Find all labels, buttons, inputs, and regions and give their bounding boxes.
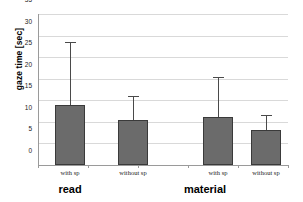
error-bar <box>218 77 219 116</box>
y-axis-tick-label: 0 <box>2 148 32 155</box>
x-axis-tick <box>138 165 139 168</box>
error-bar <box>70 42 71 105</box>
y-axis-line <box>38 14 39 166</box>
x-axis-tick <box>38 165 39 168</box>
error-bar-cap <box>65 42 76 43</box>
bar <box>55 105 85 165</box>
x-axis-line <box>38 165 288 166</box>
x-axis-group-label: material <box>145 183 265 195</box>
x-axis-tick <box>88 165 89 168</box>
x-axis-category-label: with sp <box>40 169 100 176</box>
y-axis-tick-label: 35 <box>2 0 32 4</box>
y-axis-tick-labels: 05101520253035 <box>0 0 34 151</box>
error-bar-cap <box>261 115 272 116</box>
gridline <box>38 36 288 37</box>
x-axis-tick <box>288 165 289 168</box>
x-axis-category-label: without sp <box>236 169 296 176</box>
plot-area <box>38 14 288 165</box>
y-axis-tick-label: 5 <box>2 126 32 133</box>
bar <box>118 120 148 165</box>
y-axis-tick-label: 25 <box>2 40 32 47</box>
error-bar <box>133 96 134 120</box>
gridline <box>38 79 288 80</box>
x-axis-group-label: read <box>10 183 130 195</box>
gridline <box>38 100 288 101</box>
y-axis-tick-label: 15 <box>2 83 32 90</box>
error-bar-cap <box>128 96 139 97</box>
y-axis-tick-label: 20 <box>2 62 32 69</box>
bar <box>203 117 233 165</box>
gaze-time-bar-chart: gaze time [sec] 05101520253035 with spwi… <box>0 0 303 202</box>
x-axis-category-label: without sp <box>103 169 163 176</box>
x-axis-tick <box>238 165 239 168</box>
error-bar-cap <box>213 77 224 78</box>
gridline <box>38 14 288 15</box>
y-axis-tick-label: 10 <box>2 105 32 112</box>
error-bar <box>266 115 267 129</box>
bar <box>251 130 281 165</box>
y-axis-tick-label: 30 <box>2 19 32 26</box>
x-axis-tick <box>188 165 189 168</box>
gridline <box>38 57 288 58</box>
